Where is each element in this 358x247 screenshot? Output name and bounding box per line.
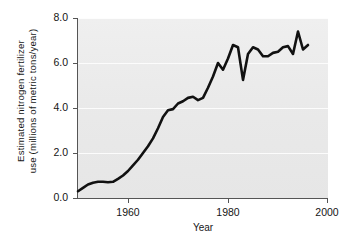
x-tick-mark-1960 — [128, 199, 129, 203]
x-tick-label-1980: 1980 — [208, 206, 248, 218]
y-tick-label-4: 4.0 — [28, 101, 68, 113]
x-tick-label-1960: 1960 — [108, 206, 148, 218]
y-tick-mark-4 — [73, 108, 77, 109]
y-tick-mark-8 — [73, 18, 77, 19]
y-axis-title-line-1: Estimated nitrogen fertilizer — [15, 40, 28, 162]
y-tick-label-6: 6.0 — [28, 56, 68, 68]
y-tick-mark-0 — [73, 198, 77, 199]
x-axis-title: Year — [78, 222, 328, 233]
y-tick-label-8: 8.0 — [28, 11, 68, 23]
y-tick-mark-6 — [73, 63, 77, 64]
x-tick-mark-2000 — [327, 199, 328, 203]
x-tick-label-2000: 2000 — [307, 206, 347, 218]
data-series-line — [78, 18, 328, 198]
fertilizer-use-line-chart: Estimated nitrogen fertilizer use (milli… — [0, 0, 358, 247]
x-tick-mark-1980 — [228, 199, 229, 203]
y-tick-label-2: 2.0 — [28, 146, 68, 158]
y-tick-label-0: 0.0 — [28, 191, 68, 203]
y-tick-mark-2 — [73, 153, 77, 154]
x-axis-line — [77, 198, 328, 199]
